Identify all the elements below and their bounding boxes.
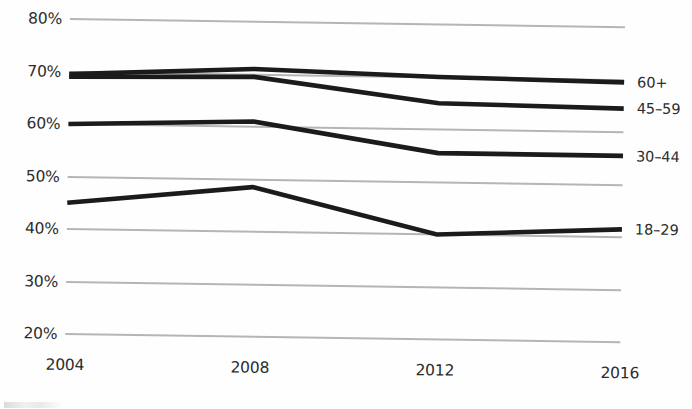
y-tick-label: 70% bbox=[3, 62, 61, 81]
y-tick-label: 30% bbox=[0, 271, 58, 290]
x-tick-label-2012: 2012 bbox=[415, 361, 454, 380]
y-tick-80: 80% bbox=[0, 18, 62, 19]
chart-skew-layer: 80%70%60%50%40%30%20% 2004200820122016 6… bbox=[0, 0, 692, 409]
y-tick-60: 60% bbox=[0, 123, 60, 124]
x-tick-label-2004: 2004 bbox=[45, 356, 84, 375]
x-tick-label-2008: 2008 bbox=[230, 358, 269, 377]
line-chart: 80%70%60%50%40%30%20% 2004200820122016 6… bbox=[0, 0, 692, 409]
page-edge-artifact bbox=[4, 402, 64, 408]
y-tick-20: 20% bbox=[0, 333, 57, 334]
data-lines-group bbox=[0, 0, 692, 409]
x-tick-label-2016: 2016 bbox=[600, 364, 639, 383]
y-tick-label: 20% bbox=[0, 324, 57, 343]
series-label-18-29: 18–29 bbox=[635, 222, 679, 239]
series-label-30-44: 30–44 bbox=[636, 148, 680, 165]
y-tick-label: 80% bbox=[4, 9, 62, 28]
y-tick-label: 60% bbox=[2, 114, 60, 133]
series-label-45-59: 45–59 bbox=[637, 101, 681, 118]
y-tick-50: 50% bbox=[0, 175, 60, 176]
y-tick-label: 50% bbox=[2, 167, 60, 186]
y-tick-70: 70% bbox=[0, 70, 61, 71]
data-line-30-44 bbox=[68, 119, 623, 156]
data-line-60+ bbox=[69, 66, 624, 82]
series-label-60+: 60+ bbox=[637, 75, 668, 91]
y-tick-label: 40% bbox=[1, 219, 59, 238]
y-tick-40: 40% bbox=[0, 228, 59, 229]
y-tick-30: 30% bbox=[0, 280, 58, 281]
data-line-18-29 bbox=[67, 184, 623, 237]
